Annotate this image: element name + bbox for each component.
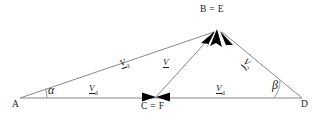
vertex-label-apex: B = E: [200, 4, 224, 14]
vertex-label-base-mid: C = F: [141, 101, 164, 111]
vector-symbol-vd-right: V: [216, 84, 222, 94]
vector-symbol-vd-left: V: [89, 84, 95, 94]
vector-symbol-v: V: [163, 58, 169, 68]
vertex-label-a: A: [12, 99, 19, 109]
vector-label-v: V: [163, 57, 169, 69]
vector-label-vd-left: Vd: [89, 83, 98, 95]
vector-subscript-vd-left: d: [95, 89, 98, 96]
arrowhead-v2-at-apex: [220, 31, 233, 50]
vector-label-vd-right: Vd: [216, 83, 225, 95]
vector-subscript-vd-right: d: [222, 89, 225, 96]
vertex-label-d: D: [301, 99, 308, 109]
angle-label-alpha: α: [48, 83, 54, 98]
arrowhead-v-at-apex: [210, 29, 222, 47]
line-d-to-apex: [222, 32, 302, 98]
angle-label-beta: β: [272, 78, 278, 93]
velocity-triangle-figure: B = E A D C = F α β V1 V V2 Vd Vd: [0, 0, 322, 122]
angle-arc-alpha: [46, 89, 48, 99]
